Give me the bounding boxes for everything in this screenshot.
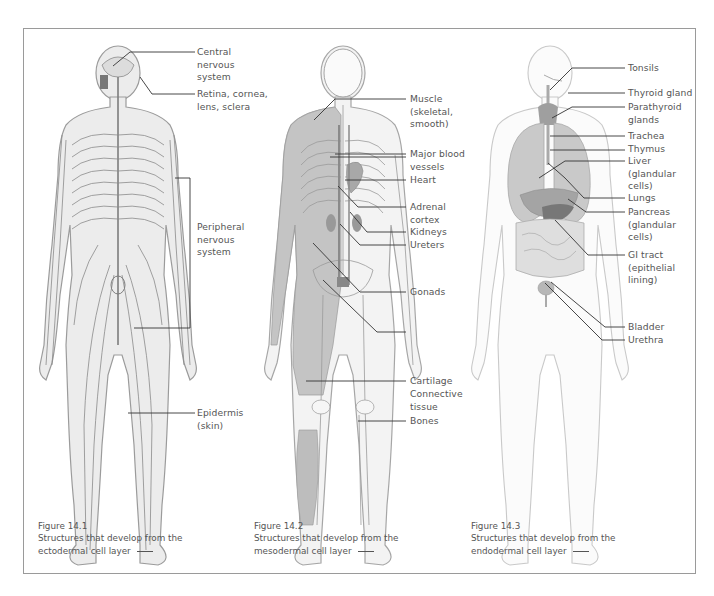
label-gonads: Gonads [410, 286, 445, 299]
legend-line-swatch [137, 551, 153, 552]
mesoderm-figure [265, 46, 422, 565]
label-parathyroid-glands: Parathyroid glands [628, 101, 682, 126]
caption-line: mesodermal cell layer [254, 545, 399, 557]
caption-figure-14-3: Figure 14.3 Structures that develop from… [471, 520, 616, 557]
caption-line-2: ectodermal cell layer [38, 546, 131, 556]
caption-line: Structures that develop from the [38, 532, 183, 544]
ectoderm-figure [40, 46, 197, 565]
label-ureters: Ureters [410, 239, 444, 252]
label-muscle: Muscle (skeletal, smooth) [410, 93, 453, 131]
label-thymus: Thymus [628, 143, 665, 156]
label-trachea: Trachea [628, 130, 665, 143]
label-lungs: Lungs [628, 192, 656, 205]
caption-line: ectodermal cell layer [38, 545, 183, 557]
label-urethra: Urethra [628, 334, 664, 347]
label-heart: Heart [410, 174, 436, 187]
anatomy-illustrations [0, 0, 714, 596]
caption-line: Structures that develop from the [471, 532, 616, 544]
label-kidneys: Kidneys [410, 226, 447, 239]
label-epidermis: Epidermis (skin) [197, 407, 243, 432]
label-gi-tract: GI tract (epithelial lining) [628, 249, 675, 287]
label-pancreas: Pancreas (glandular cells) [628, 206, 676, 244]
label-central-nervous-system: Central nervous system [197, 46, 235, 84]
legend-line-swatch [573, 551, 589, 552]
caption-line: endodermal cell layer [471, 545, 616, 557]
caption-line-2: mesodermal cell layer [254, 546, 352, 556]
caption-title: Figure 14.1 [38, 520, 183, 532]
caption-figure-14-2: Figure 14.2 Structures that develop from… [254, 520, 399, 557]
caption-figure-14-1: Figure 14.1 Structures that develop from… [38, 520, 183, 557]
label-bones: Bones [410, 415, 439, 428]
label-cartilage: Cartilage [410, 375, 453, 388]
label-bladder: Bladder [628, 321, 664, 334]
label-peripheral-nervous-system: Peripheral nervous system [197, 221, 244, 259]
label-liver: Liver (glandular cells) [628, 155, 676, 193]
caption-title: Figure 14.3 [471, 520, 616, 532]
label-retina-cornea-lens-sclera: Retina, cornea, lens, sclera [197, 88, 268, 113]
endoderm-figure [472, 46, 629, 565]
caption-line: Structures that develop from the [254, 532, 399, 544]
label-adrenal-cortex: Adrenal cortex [410, 201, 446, 226]
label-connective-tissue: Connective tissue [410, 388, 463, 413]
label-tonsils: Tonsils [628, 62, 659, 75]
label-thyroid-gland: Thyroid gland [628, 87, 692, 100]
caption-title: Figure 14.2 [254, 520, 399, 532]
label-major-blood-vessels: Major blood vessels [410, 148, 465, 173]
legend-line-swatch [358, 551, 374, 552]
caption-line-2: endodermal cell layer [471, 546, 567, 556]
